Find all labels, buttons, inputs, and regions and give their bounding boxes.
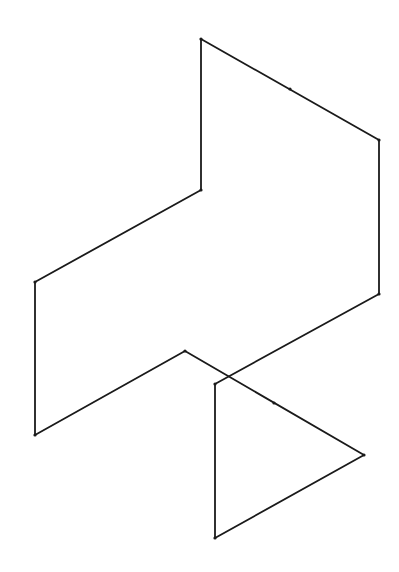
diagram-canvas: [0, 0, 399, 572]
vertex-dot-I: [33, 280, 36, 283]
wireframe-figure: [0, 0, 399, 572]
vertex-dot-M1: [288, 87, 291, 90]
vertex-dot-E: [213, 536, 216, 539]
vertex-dot-D: [213, 382, 216, 385]
edge-C-D: [215, 294, 379, 384]
edge-I-J: [35, 190, 201, 282]
vertex-dot-C: [377, 292, 380, 295]
vertex-dot-A: [199, 37, 202, 40]
vertex-dot-G: [183, 349, 186, 352]
vertex-dot-H: [33, 433, 36, 436]
figure-edges: [35, 39, 379, 538]
figure-vertices: [33, 37, 380, 539]
vertex-dot-F: [362, 453, 365, 456]
vertex-dot-J: [199, 188, 202, 191]
edge-E-F: [215, 455, 364, 538]
vertex-dot-B: [377, 138, 380, 141]
edge-G-H: [35, 351, 185, 435]
vertex-dot-M2: [272, 401, 275, 404]
